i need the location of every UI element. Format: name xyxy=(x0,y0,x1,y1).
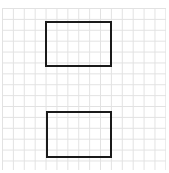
cropped-caption-text xyxy=(0,0,169,2)
bottom-rectangle xyxy=(46,111,112,158)
top-rectangle xyxy=(45,21,112,67)
